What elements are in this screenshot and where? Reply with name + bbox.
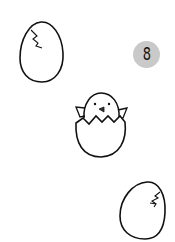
cracked-egg-icon — [117, 180, 169, 242]
cracked-egg-icon — [17, 20, 67, 85]
page-canvas: 8 — [0, 0, 175, 242]
hatching-chick-icon — [70, 88, 132, 162]
badge-number: 8 — [142, 46, 150, 63]
number-badge: 8 — [133, 41, 160, 68]
